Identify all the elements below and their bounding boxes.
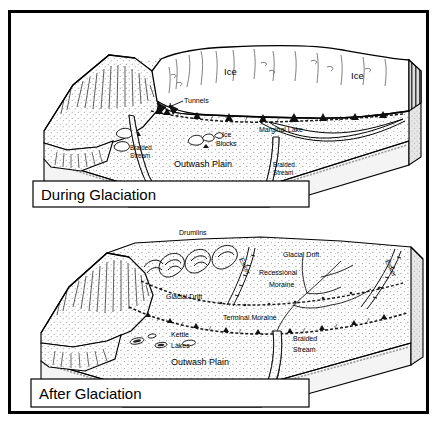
label-recessional-moraine-line1: Recessional <box>259 269 298 276</box>
panel-title-during: During Glaciation <box>41 186 156 203</box>
label-ice-center: Ice <box>224 66 237 77</box>
label-glacial-drift-right: Glacial Drift <box>283 251 319 258</box>
label-braided-stream-left-line1: Braided <box>130 144 152 151</box>
label-recessional-moraine-line2: Moraine <box>269 281 294 288</box>
glaciation-figure: Ice Ice Tunnels Ice Blocks Marginal Lake… <box>0 0 439 424</box>
block-right-face-after <box>411 247 423 365</box>
label-ice-right: Ice <box>351 70 364 81</box>
ice-cross-section <box>409 60 421 111</box>
during-glaciation-drawing: Ice Ice Tunnels Ice Blocks Marginal Lake… <box>11 15 426 213</box>
panel-during-glaciation: Ice Ice Tunnels Ice Blocks Marginal Lake… <box>11 15 426 213</box>
label-tunnels: Tunnels <box>184 97 209 104</box>
label-kettle-lakes-line2: Lakes <box>171 342 190 349</box>
label-kettle-lakes-line1: Kettle <box>171 331 189 338</box>
label-glacial-drift-left: Glacial Drift <box>166 293 202 300</box>
ice-sheet <box>152 45 409 118</box>
label-ice-blocks-line1: Ice <box>222 131 231 138</box>
panel-title-after: After Glaciation <box>39 385 142 402</box>
label-braided-stream-after-line2: Stream <box>293 346 316 353</box>
label-marginal-lake: Marginal Lake <box>259 126 303 134</box>
label-braided-stream-left-line2: Stream <box>130 152 150 159</box>
panel-after-glaciation: Drumlins Esker Esker Glacial Drift Glaci… <box>11 213 426 413</box>
label-terminal-moraine: Terminal Moraine <box>223 314 277 321</box>
label-drumlins: Drumlins <box>179 229 207 236</box>
label-outwash-plain-after: Outwash Plain <box>171 357 229 367</box>
figure-outer-border: Ice Ice Tunnels Ice Blocks Marginal Lake… <box>8 10 429 414</box>
label-braided-stream-right-line1: Braided <box>273 161 295 168</box>
label-ice-blocks-line2: Blocks <box>216 140 237 147</box>
label-outwash-plain: Outwash Plain <box>174 159 232 169</box>
label-braided-stream-after-line1: Braided <box>293 335 317 342</box>
label-braided-stream-right-line2: Stream <box>273 169 293 176</box>
after-glaciation-drawing: Drumlins Esker Esker Glacial Drift Glaci… <box>11 213 426 413</box>
